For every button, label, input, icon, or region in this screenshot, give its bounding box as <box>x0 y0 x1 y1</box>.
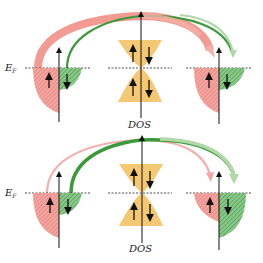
fermi-level-label: EF <box>4 187 17 199</box>
barrier-lower-dos <box>118 68 162 102</box>
bottom-panel: EF DOS <box>4 138 252 254</box>
spin-up-arrowhead-icon <box>206 172 214 182</box>
left-spin-down-dos-lobe <box>59 68 82 90</box>
dos-axis-label: DOS <box>128 243 152 254</box>
barrier-lower-dos <box>119 193 163 226</box>
spin-down-arrowhead-icon <box>229 50 237 58</box>
dos-axis-label: DOS <box>127 119 151 130</box>
right-spin-up-dos-lobe <box>194 193 219 222</box>
fermi-level-label: EF <box>4 62 17 74</box>
barrier-upper-dos <box>118 40 162 68</box>
right-spin-down-dos-lobe <box>219 193 246 238</box>
right-spin-up-dos-lobe <box>194 68 219 113</box>
left-spin-down-dos-lobe <box>59 193 82 215</box>
spin-tunneling-diagram: EF DOS EF <box>0 0 263 263</box>
spin-down-arrowhead-icon <box>229 174 239 184</box>
left-spin-up-dos-lobe <box>33 68 59 113</box>
barrier-upper-dos <box>119 164 163 193</box>
top-panel: EF DOS <box>4 14 252 130</box>
left-spin-up-dos-lobe <box>33 193 59 238</box>
right-spin-down-dos-lobe <box>219 68 245 90</box>
